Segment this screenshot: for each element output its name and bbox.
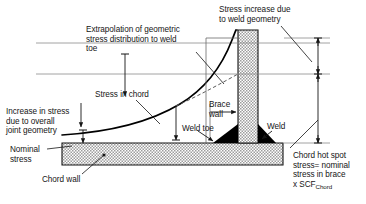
right-dimension-stack bbox=[284, 38, 330, 143]
label-increase-overall: Increase in stress due to overall joint … bbox=[6, 107, 69, 136]
nominal-stress-dimension bbox=[79, 130, 87, 143]
hot-spot-line-4: x SCF bbox=[293, 180, 316, 189]
label-stress-increase-weld: Stress increase due to weld geometry bbox=[219, 5, 290, 24]
label-chord-wall: Chord wall bbox=[42, 175, 80, 185]
hot-spot-line-3: stress in brace bbox=[293, 170, 346, 179]
scf-chord-subscript: Chord bbox=[316, 182, 333, 189]
label-weld-toe: Weld toe bbox=[182, 124, 214, 134]
label-brace-wall: Brace wall bbox=[209, 100, 230, 119]
label-weld: Weld bbox=[267, 122, 285, 132]
hot-spot-line-2: stress= nominal bbox=[293, 161, 350, 170]
stress-increase-weld-leader bbox=[281, 26, 312, 62]
chord-wall-section bbox=[62, 143, 283, 165]
label-nominal-stress: Nominal stress bbox=[10, 145, 40, 164]
hot-spot-leader bbox=[290, 120, 318, 148]
geometric-stress-dimension bbox=[172, 106, 180, 140]
label-chord-hot-spot-stress: Chord hot spot stress= nominal stress in… bbox=[293, 151, 350, 191]
stress-in-chord-leader bbox=[136, 100, 160, 124]
brace-wall-section bbox=[238, 30, 258, 143]
label-stress-in-chord: Stress in chord bbox=[95, 90, 149, 100]
hot-spot-line-1: Chord hot spot bbox=[293, 151, 346, 160]
label-extrapolation: Extrapolation of geometric stress distri… bbox=[86, 25, 180, 54]
